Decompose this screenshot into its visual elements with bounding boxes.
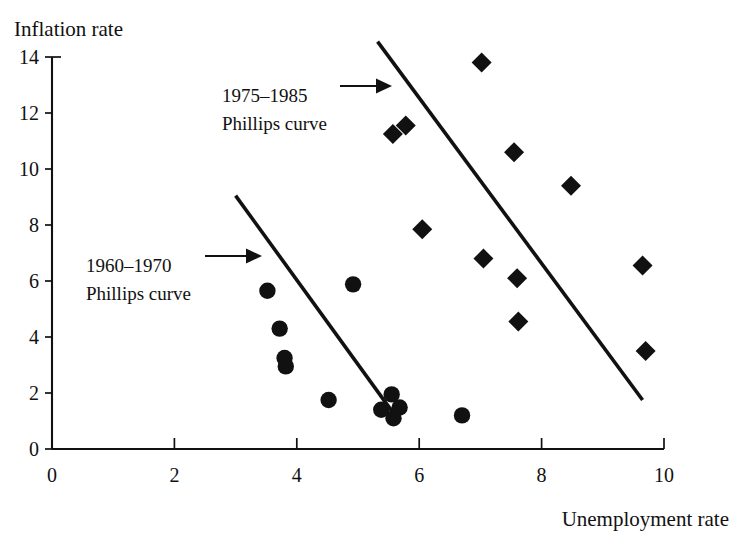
y-tick-label: 14 (19, 46, 39, 68)
x-tick-label: 4 (292, 464, 302, 486)
y-tick-label: 0 (29, 438, 39, 460)
x-tick-label: 6 (414, 464, 424, 486)
y-tick-label: 2 (29, 382, 39, 404)
data-point-diamond (507, 268, 527, 288)
annotations-group: 1975–1985Phillips curve1960–1970Phillips… (86, 79, 392, 305)
phillips-curve-chart: 02468101214 0246810 Inflation rate Unemp… (0, 0, 739, 546)
data-point-circle (345, 276, 361, 292)
series-circle (259, 276, 470, 426)
x-axis-title: Unemployment rate (562, 507, 729, 531)
trend-line (378, 42, 643, 400)
y-axis-tick-labels: 02468101214 (19, 46, 39, 460)
y-axis-title: Inflation rate (14, 17, 123, 41)
annotation-arrow-icon (246, 249, 262, 264)
annotation-line-1: 1960–1970 (86, 255, 172, 276)
annotation-1975-1985: 1975–1985Phillips curve (222, 79, 392, 135)
annotation-line-2: Phillips curve (222, 113, 327, 134)
y-tick-label: 8 (29, 214, 39, 236)
data-point-diamond (472, 53, 492, 73)
x-axis-tick-labels: 0246810 (47, 464, 674, 486)
data-point-diamond (508, 312, 528, 332)
data-point-diamond (561, 176, 581, 196)
data-point-circle (259, 283, 275, 299)
data-point-circle (278, 358, 294, 374)
data-point-circle (454, 407, 470, 423)
data-points-group (259, 53, 655, 427)
data-point-diamond (633, 256, 653, 276)
data-point-diamond (473, 249, 493, 269)
data-point-diamond (504, 142, 524, 162)
annotation-line-2: Phillips curve (86, 283, 191, 304)
y-tick-label: 6 (29, 270, 39, 292)
x-tick-label: 0 (47, 464, 57, 486)
x-tick-label: 8 (537, 464, 547, 486)
data-point-circle (271, 320, 287, 336)
data-point-circle (320, 392, 336, 408)
chart-canvas: 02468101214 0246810 Inflation rate Unemp… (0, 0, 739, 546)
y-tick-label: 12 (19, 102, 39, 124)
x-tick-label: 2 (169, 464, 179, 486)
y-tick-label: 10 (19, 158, 39, 180)
data-point-diamond (412, 219, 432, 239)
x-axis-ticks (52, 438, 664, 449)
y-tick-label: 4 (29, 326, 39, 348)
data-point-circle (391, 399, 407, 415)
annotation-1960-1970: 1960–1970Phillips curve (86, 249, 262, 305)
annotation-line-1: 1975–1985 (222, 85, 308, 106)
series-diamond (383, 53, 656, 361)
x-tick-label: 10 (654, 464, 674, 486)
annotation-arrow-icon (376, 79, 392, 94)
data-point-diamond (636, 341, 656, 361)
trend-line (236, 196, 397, 418)
